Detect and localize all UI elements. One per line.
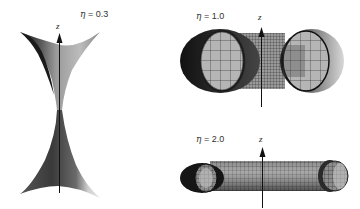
z-axis-arrowhead	[259, 27, 265, 37]
hyperboloid-surface	[0, 0, 180, 209]
z-axis-label: z	[259, 134, 263, 144]
panel-eta-1-0: η = 1.0	[180, 0, 360, 110]
panel-eta-0-3: η = 0.3 z	[0, 0, 180, 209]
tube-surface	[180, 110, 360, 209]
z-axis-label: z	[56, 21, 60, 31]
twin-sphere-surface	[180, 0, 360, 110]
z-axis-arrowhead	[260, 147, 266, 157]
z-axis-label: z	[258, 12, 262, 22]
panel-eta-2-0: η = 2.0 z	[180, 110, 360, 209]
z-axis-arrowhead	[57, 33, 63, 43]
